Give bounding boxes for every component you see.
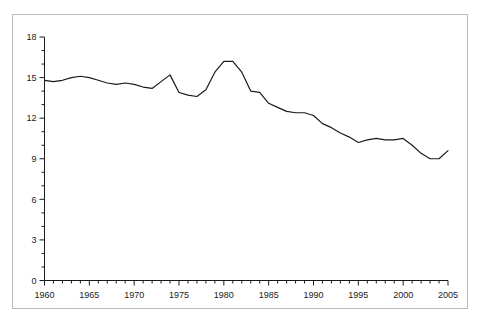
x-tick-label: 1985 [259, 290, 279, 300]
line-chart: 0369121518 19601965197019751980198519901… [0, 0, 480, 322]
figure-border [13, 15, 468, 309]
x-tick-label: 1960 [34, 290, 54, 300]
x-tick-label: 2005 [438, 290, 458, 300]
y-tick-label: 15 [26, 73, 36, 83]
y-tick-label: 3 [31, 235, 36, 245]
chart-figure: 0369121518 19601965197019751980198519901… [0, 0, 480, 322]
y-tick-label: 12 [26, 113, 36, 123]
x-tick-label: 1980 [214, 290, 234, 300]
x-tick-label: 1995 [348, 290, 368, 300]
x-tick-label: 2000 [393, 290, 413, 300]
y-tick-label: 6 [31, 195, 36, 205]
x-tick-label: 1970 [124, 290, 144, 300]
x-tick-label: 1965 [79, 290, 99, 300]
x-tick-label: 1990 [303, 290, 323, 300]
x-tick-label: 1975 [169, 290, 189, 300]
y-tick-label: 9 [31, 154, 36, 164]
y-tick-label: 0 [31, 276, 36, 286]
y-tick-label: 18 [26, 32, 36, 42]
